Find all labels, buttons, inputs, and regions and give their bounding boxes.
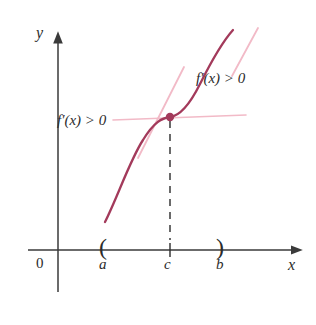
- right-derivative-label: f′(x) > 0: [196, 70, 245, 87]
- tick-label-b: b: [216, 256, 224, 273]
- left-derivative-label: f′(x) > 0: [57, 112, 106, 129]
- upper-tangent-line: [232, 28, 258, 76]
- function-curve: [105, 30, 233, 222]
- inflection-point-marker: [166, 113, 174, 121]
- steep-tangent-line: [138, 67, 184, 158]
- horizontal-tangent-line: [113, 115, 246, 120]
- origin-label: 0: [36, 255, 44, 272]
- x-axis-label: x: [288, 256, 295, 274]
- function-graph-figure: [0, 0, 316, 325]
- y-axis-label: y: [36, 24, 43, 42]
- tick-label-c: c: [164, 256, 171, 273]
- tick-label-a: a: [99, 256, 107, 273]
